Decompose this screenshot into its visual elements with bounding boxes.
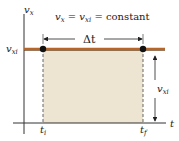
start-time-label: ti [40,124,46,137]
x-axis-label: t [170,118,175,129]
level-label: vxi [6,43,18,56]
equation-label: vx = vxi = constant [55,11,150,24]
end-time-label: tf [140,124,148,137]
start-point [40,46,46,52]
height-label: vxi [157,83,169,96]
displacement-area [43,49,143,123]
y-axis-label: vx [24,4,34,17]
end-point [140,46,146,52]
interval-label: Δt [83,33,96,46]
velocity-time-graph: vx vx = vxi = constant vxi Δt vxi ti tf … [0,0,179,141]
